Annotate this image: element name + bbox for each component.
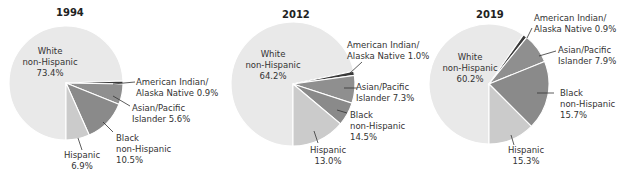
label-hispanic-1994: Hispanic 6.9% <box>60 150 104 172</box>
chart-title-2012: 2012 <box>282 9 310 20</box>
label-white-1994: White non-Hispanic 73.4% <box>22 46 78 79</box>
label-black-2019: Black non-Hispanic 15.7% <box>560 88 615 121</box>
label-asian-2012: Asian/Pacific Islander 7.3% <box>356 82 414 104</box>
label-black-2012: Black non-Hispanic 14.5% <box>350 110 405 143</box>
panel-1994: 1994 White non-Hispanic 73.4% American I… <box>0 0 210 183</box>
label-black-1994: Black non-Hispanic 10.5% <box>116 133 171 166</box>
label-hispanic-2012: Hispanic 13.0% <box>306 145 350 167</box>
label-aian-1994: American Indian/ Alaska Native 0.9% <box>136 77 218 99</box>
label-white-2012: White non-Hispanic 64.2% <box>243 49 303 82</box>
label-asian-1994: Asian/Pacific Islander 5.6% <box>132 103 190 125</box>
label-asian-2019: Asian/Pacific Islander 7.9% <box>558 45 616 67</box>
label-aian-2019: American Indian/ Alaska Native 0.9% <box>534 13 616 35</box>
chart-title-1994: 1994 <box>56 7 84 18</box>
label-hispanic-2019: Hispanic 15.3% <box>504 145 548 167</box>
panel-2012: 2012 White non-Hispanic 64.2% American I… <box>210 0 420 183</box>
panel-2019: 2019 White non-Hispanic 60.2% American I… <box>410 0 622 183</box>
label-white-2019: White non-Hispanic 60.2% <box>440 52 500 85</box>
chart-title-2019: 2019 <box>476 9 504 20</box>
